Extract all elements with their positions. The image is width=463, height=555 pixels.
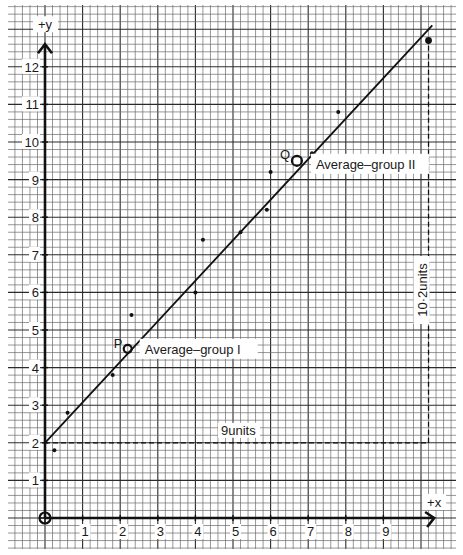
x-tick-label: 7: [307, 524, 314, 539]
data-point: [269, 170, 273, 174]
y-tick-label: 10: [25, 135, 39, 150]
data-point: [239, 230, 243, 234]
data-point: [265, 208, 269, 212]
point-label-p: P: [114, 336, 123, 351]
x-axis-label: +x: [427, 495, 442, 510]
y-tick-label: 4: [32, 361, 39, 376]
fit-line: [45, 25, 432, 442]
data-point: [193, 290, 197, 294]
y-tick-label: 9: [32, 173, 39, 188]
data-point: [201, 238, 205, 242]
data-point: [111, 373, 115, 377]
y-tick-label: 3: [32, 398, 39, 413]
x-tick-label: 6: [269, 524, 276, 539]
x-tick-label: 1: [81, 524, 88, 539]
average-group-1-label: Average–group I: [145, 342, 241, 357]
y-tick-label: 6: [32, 285, 39, 300]
horizontal-distance-label: 9units: [221, 423, 256, 438]
x-tick-label: 5: [232, 524, 239, 539]
average-group-2-label: Average–group II: [316, 157, 416, 172]
graph-paper-grid: [8, 5, 456, 549]
y-axis-label: +y: [38, 17, 53, 32]
x-tick-label: 3: [157, 524, 164, 539]
y-tick-label: 8: [32, 210, 39, 225]
point-label-q: Q: [280, 147, 290, 162]
y-tick-label: 12: [25, 60, 39, 75]
y-tick-label: 7: [32, 248, 39, 263]
y-tick-label: 2: [32, 436, 39, 451]
data-point: [66, 411, 70, 415]
x-tick-label: 2: [119, 524, 126, 539]
x-tick-label: 9: [382, 524, 389, 539]
vertical-distance-label: 10·2units: [415, 263, 430, 317]
y-tick-label: 5: [32, 323, 39, 338]
data-point: [52, 448, 56, 452]
data-point: [129, 313, 133, 317]
data-point: [425, 37, 432, 44]
best-fit-line: [45, 25, 432, 442]
y-tick-label: 1: [32, 473, 39, 488]
y-tick-label: 11: [26, 97, 40, 112]
x-tick-label: 4: [194, 524, 201, 539]
x-axis-arrow-icon: [425, 512, 434, 527]
scatter-chart: 123456789123456789101112+y+x PQAverage–g…: [0, 0, 463, 555]
x-tick-label: 8: [345, 524, 352, 539]
data-point: [336, 110, 340, 114]
